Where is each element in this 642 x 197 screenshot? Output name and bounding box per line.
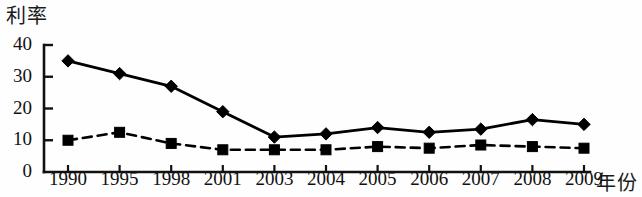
data-point-marker [63,135,73,145]
y-tick-label: 0 [0,160,32,182]
data-point-marker [423,126,435,138]
series-line [68,61,584,137]
data-point-marker [269,145,279,155]
data-point-marker [371,121,383,133]
y-tick-label: 10 [0,128,32,150]
data-point-marker [218,145,228,155]
data-point-marker [373,142,383,152]
axis-lines [44,45,590,172]
data-point-marker [113,67,125,79]
data-point-marker [475,123,487,135]
data-series-layer [62,55,590,155]
x-tick-label: 1995 [93,168,147,190]
chart-figure: 利率 年份 010203040 199019951998200120032004… [0,0,642,197]
x-tick-label: 2008 [505,168,559,190]
data-point-marker [166,138,176,148]
data-point-marker [424,143,434,153]
data-point-marker [217,105,229,117]
x-tick-label: 2006 [402,168,456,190]
series-1 [62,55,590,144]
x-tick-label: 2001 [196,168,250,190]
x-tick-label: 2004 [299,168,353,190]
data-point-marker [62,55,74,67]
y-tick-label: 30 [0,65,32,87]
x-tick-label: 2007 [454,168,508,190]
data-point-marker [115,127,125,137]
x-tick-label: 1990 [41,168,95,190]
x-tick-label: 2009 [557,168,611,190]
y-tick-label: 20 [0,97,32,119]
data-point-marker [476,140,486,150]
y-tick-label: 40 [0,33,32,55]
data-point-marker [321,145,331,155]
y-axis-ticks [44,45,53,140]
x-tick-label: 2005 [351,168,405,190]
data-point-marker [526,113,538,125]
data-point-marker [527,142,537,152]
x-tick-label: 2003 [247,168,301,190]
data-point-marker [578,118,590,130]
data-point-marker [268,131,280,143]
x-tick-label: 1998 [144,168,198,190]
data-point-marker [579,143,589,153]
data-point-marker [320,128,332,140]
data-point-marker [165,80,177,92]
